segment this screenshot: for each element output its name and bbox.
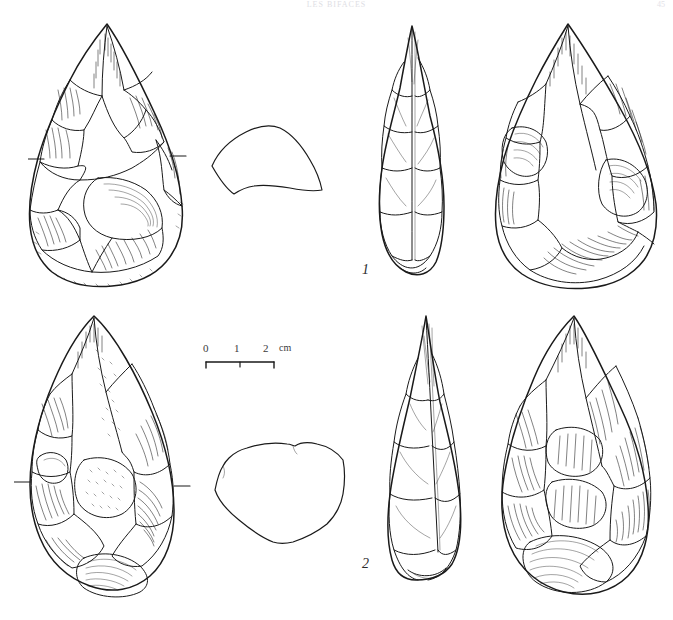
figure-number-1: 1 bbox=[362, 262, 369, 278]
figure-2-cross-section bbox=[205, 432, 350, 557]
figure-1-profile-view bbox=[368, 22, 460, 284]
figure-1-cross-section bbox=[200, 118, 325, 213]
scale-unit-label: cm bbox=[279, 342, 291, 353]
scale-label-0: 0 bbox=[203, 342, 209, 354]
scale-bar-graphic bbox=[203, 356, 295, 370]
lithic-illustration-plate: LES BIFACES 45 bbox=[0, 0, 673, 620]
scale-bar-labels: 0 1 2 cm bbox=[203, 342, 295, 356]
figure-number-2: 2 bbox=[362, 556, 369, 572]
scale-label-1: 1 bbox=[234, 342, 240, 354]
figure-2-section-tick-right bbox=[172, 482, 192, 490]
figure-1-section-tick-right bbox=[168, 152, 188, 160]
figure-1-ventral-view bbox=[482, 18, 668, 293]
figure-2-section-tick-left bbox=[14, 478, 32, 486]
figure-1-section-tick-left bbox=[28, 155, 46, 163]
page-number: 45 bbox=[657, 0, 665, 9]
scale-label-2: 2 bbox=[263, 342, 269, 354]
figure-2-ventral-view bbox=[492, 310, 660, 602]
figure-2-dorsal-view bbox=[22, 310, 182, 602]
page-header-text: LES BIFACES bbox=[0, 0, 673, 9]
figure-2-profile-view bbox=[378, 312, 474, 582]
scale-bar: 0 1 2 cm bbox=[203, 342, 295, 372]
